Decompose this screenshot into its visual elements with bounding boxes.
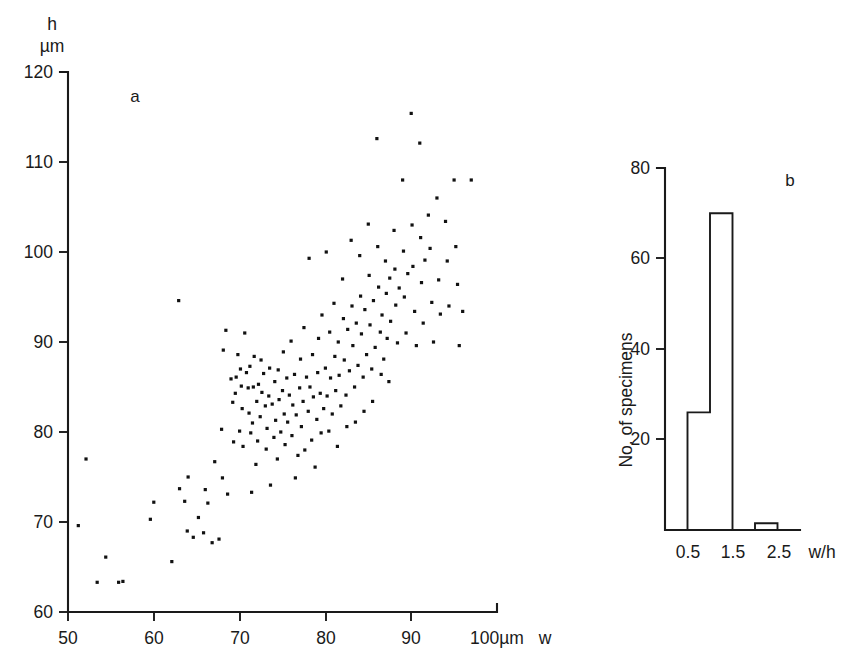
scatter-point [382,358,385,361]
panel-a-x-unit-label: 100µm [470,628,524,648]
scatter-point [303,448,306,451]
scatter-point [283,443,286,446]
scatter-point [183,500,186,503]
scatter-point [253,355,256,358]
scatter-point [325,250,328,253]
scatter-point [257,383,260,386]
scatter-point [310,439,313,442]
scatter-point [315,418,318,421]
scatter-point [324,367,327,370]
scientific-figure: 120 110 100 90 80 70 60 50 60 70 80 90 1… [0,0,858,669]
scatter-point [406,272,409,275]
scatter-point [202,531,205,534]
scatter-point [259,415,262,418]
scatter-point [152,501,155,504]
scatter-point [458,344,461,347]
scatter-point [226,493,229,496]
scatter-point [358,254,361,257]
panel-a-axis-lines [60,72,497,612]
scatter-point [295,413,298,416]
scatter-point [311,353,314,356]
scatter-point [362,376,365,379]
scatter-point [389,320,392,323]
scatter-point [348,369,351,372]
scatter-point [359,295,362,298]
scatter-point [229,377,232,380]
scatter-point [360,332,363,335]
scatter-point [393,268,396,271]
scatter-point [222,349,225,352]
scatter-point [308,385,311,388]
scatter-point [241,407,244,410]
scatter-point [322,407,325,410]
panel-a-xtick-80: 80 [316,628,336,648]
scatter-point [250,491,253,494]
scatter-point [345,425,348,428]
scatter-point [372,299,375,302]
scatter-point [307,410,310,413]
panel-a-xtick-70: 70 [230,628,250,648]
scatter-point [371,400,374,403]
scatter-point [398,286,401,289]
scatter-point [308,257,311,260]
scatter-point [343,358,346,361]
panel-a-ytick-90: 90 [34,332,54,352]
scatter-point [316,371,319,374]
panel-a-y-axis-unit: µm [40,36,65,56]
scatter-point [362,410,365,413]
scatter-point [402,250,405,253]
panel-a-xtick-50: 50 [58,628,78,648]
scatter-point [249,431,252,434]
scatter-point [271,403,274,406]
panel-a-ytick-100: 100 [24,242,53,262]
scatter-point [351,344,354,347]
scatter-point [470,178,473,181]
panel-a-y-ticks [59,72,68,612]
scatter-point [388,277,391,280]
scatter-point [239,367,242,370]
scatter-point [285,376,288,379]
scatter-point [117,581,120,584]
scatter-point [385,292,388,295]
panel-b-xtick-25: 2.5 [767,542,791,562]
panel-b-label: b [785,171,794,190]
scatter-point [367,223,370,226]
scatter-point [370,367,373,370]
scatter-point [423,259,426,262]
scatter-point [305,376,308,379]
scatter-point [279,430,282,433]
scatter-point [192,536,195,539]
scatter-point [213,460,216,463]
scatter-point [432,340,435,343]
scatter-point [453,178,456,181]
scatter-point [355,322,358,325]
scatter-point [403,295,406,298]
scatter-point [96,581,99,584]
scatter-point [329,376,332,379]
scatter-point [268,367,271,370]
scatter-point [380,373,383,376]
scatter-point [241,445,244,448]
scatter-point [177,299,180,302]
scatter-point [337,340,340,343]
scatter-point [314,466,317,469]
scatter-point [368,274,371,277]
scatter-point [290,434,293,437]
scatter-point [422,322,425,325]
scatter-point [375,137,378,140]
scatter-point [456,283,459,286]
scatter-point [420,281,423,284]
scatter-point [281,389,284,392]
scatter-point [256,439,259,442]
scatter-point [234,392,237,395]
scatter-point [415,344,418,347]
scatter-point [302,326,305,329]
scatter-point [336,445,339,448]
scatter-point [277,368,280,371]
scatter-point [317,337,320,340]
panel-a-ytick-70: 70 [34,512,54,532]
scatter-point [418,142,421,145]
scatter-point [376,245,379,248]
scatter-point [427,214,430,217]
scatter-point [346,328,349,331]
